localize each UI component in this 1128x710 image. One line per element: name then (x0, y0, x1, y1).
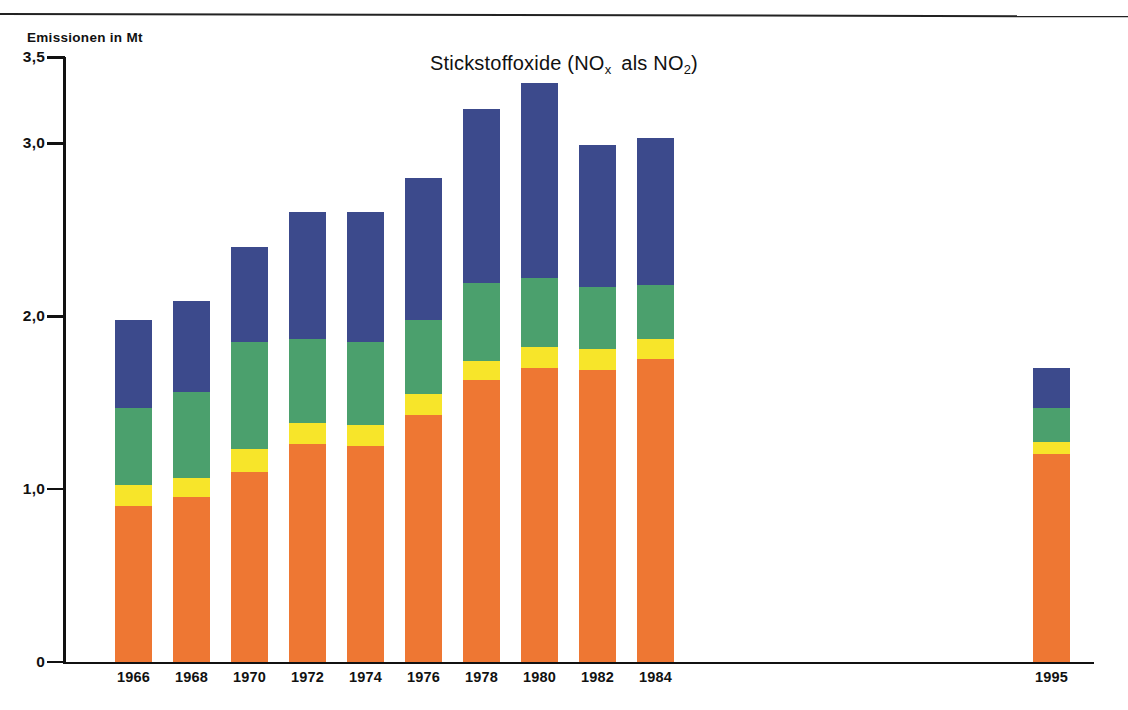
x-label-1984: 1984 (616, 669, 696, 685)
bar-segment-green (579, 287, 616, 349)
bar-segment-green (1033, 408, 1070, 443)
y-tick-label: 2,0 (23, 307, 45, 325)
bar-segment-blue (347, 212, 384, 342)
bar-segment-yellow (463, 361, 500, 380)
bar-segment-green (405, 320, 442, 394)
bar-segment-yellow (289, 423, 326, 444)
y-tick-label: 3,5 (23, 48, 45, 66)
chart-figure: Emissionen in Mt Stickstoffoxide (NOxals… (0, 0, 1128, 710)
bar-segment-orange (579, 370, 616, 662)
y-tick-label: 3,0 (23, 134, 45, 152)
bar-segment-orange (637, 359, 674, 661)
y-tick-mark (47, 142, 65, 145)
bar-segment-yellow (521, 347, 558, 368)
y-tick-mark (47, 315, 65, 318)
bar-1984[interactable] (637, 138, 674, 661)
bar-segment-yellow (405, 394, 442, 415)
bar-segment-green (347, 342, 384, 425)
bar-1970[interactable] (231, 247, 268, 661)
y-tick-label: 1,0 (23, 480, 45, 498)
bar-segment-blue (231, 247, 268, 342)
bar-1972[interactable] (289, 212, 326, 661)
bar-1966[interactable] (115, 320, 152, 662)
bar-segment-green (231, 342, 268, 449)
bar-1968[interactable] (173, 301, 210, 662)
bar-1995[interactable] (1033, 368, 1070, 662)
bar-segment-blue (115, 320, 152, 408)
plot-area: 01,02,03,03,5 19661968197019721974197619… (63, 57, 1128, 664)
y-tick-mark (47, 488, 65, 491)
bar-1976[interactable] (405, 178, 442, 662)
y-tick-mark (47, 661, 65, 664)
bar-segment-yellow (1033, 442, 1070, 454)
x-label-1995: 1995 (1012, 669, 1092, 685)
bar-1978[interactable] (463, 109, 500, 662)
bar-segment-blue (579, 145, 616, 287)
bar-1974[interactable] (347, 212, 384, 661)
bar-1980[interactable] (521, 83, 558, 662)
bar-segment-blue (173, 301, 210, 393)
bar-segment-orange (521, 368, 558, 662)
bar-segment-green (637, 285, 674, 339)
bar-segment-blue (405, 178, 442, 320)
bar-segment-green (115, 408, 152, 486)
page-top-rule (0, 13, 1128, 17)
bar-segment-green (521, 278, 558, 347)
bar-segment-blue (463, 109, 500, 283)
x-axis-line (63, 662, 1094, 665)
bar-segment-orange (347, 446, 384, 662)
bar-segment-orange (405, 415, 442, 662)
y-axis-line (63, 57, 66, 664)
bar-segment-orange (173, 497, 210, 661)
bar-segment-orange (115, 506, 152, 661)
bar-segment-yellow (347, 425, 384, 446)
y-tick-mark (47, 56, 65, 59)
bar-segment-orange (289, 444, 326, 662)
y-tick-label: 0 (36, 653, 45, 671)
bar-segment-yellow (579, 349, 616, 370)
y-axis-unit-label: Emissionen in Mt (27, 30, 143, 45)
bar-segment-yellow (173, 478, 210, 497)
bar-segment-green (289, 339, 326, 424)
bar-segment-yellow (231, 449, 268, 471)
bar-segment-yellow (115, 485, 152, 506)
bar-segment-blue (289, 212, 326, 338)
bar-segment-orange (1033, 454, 1070, 661)
bar-segment-blue (1033, 368, 1070, 408)
bar-segment-green (463, 283, 500, 361)
bar-segment-yellow (637, 339, 674, 360)
bar-segment-green (173, 392, 210, 478)
bar-segment-orange (231, 472, 268, 662)
bar-segment-blue (521, 83, 558, 278)
bar-1982[interactable] (579, 145, 616, 661)
bar-segment-blue (637, 138, 674, 285)
bar-segment-orange (463, 380, 500, 662)
